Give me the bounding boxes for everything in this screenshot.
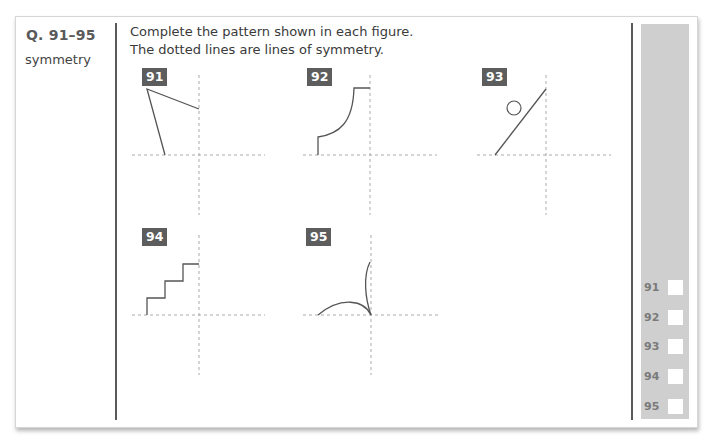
worksheet-card: Q. 91–95 symmetry Complete the pattern s… xyxy=(15,16,698,428)
answer-row-91: 91 xyxy=(641,279,689,297)
answer-label: 93 xyxy=(644,340,659,353)
question-prefix: Q. xyxy=(26,27,44,43)
figure-91: 91 xyxy=(132,68,302,238)
answer-checkbox[interactable] xyxy=(668,339,683,354)
figure-number-badge: 95 xyxy=(306,228,331,246)
figure-92: 92 xyxy=(291,68,461,238)
instruction-line-1: Complete the pattern shown in each figur… xyxy=(130,23,413,41)
figure-number-badge: 94 xyxy=(142,228,167,246)
instruction-line-2: The dotted lines are lines of symmetry. xyxy=(130,41,413,59)
instructions: Complete the pattern shown in each figur… xyxy=(130,23,413,59)
answer-panel: 91 92 93 94 95 xyxy=(641,24,689,419)
answer-row-95: 95 xyxy=(641,398,689,416)
figure-92-drawing xyxy=(291,68,461,238)
figure-93: 93 xyxy=(469,68,639,238)
figure-91-drawing xyxy=(132,68,302,238)
answer-label: 95 xyxy=(644,400,659,413)
figure-94-drawing xyxy=(132,228,302,398)
question-topic: symmetry xyxy=(25,52,91,67)
figure-number-badge: 92 xyxy=(307,68,332,86)
figure-95-drawing xyxy=(291,228,461,398)
answer-checkbox[interactable] xyxy=(668,399,683,414)
question-range: 91–95 xyxy=(49,27,96,43)
answer-checkbox[interactable] xyxy=(668,310,683,325)
figure-94: 94 xyxy=(132,228,302,398)
left-divider xyxy=(115,23,117,420)
figure-number-badge: 93 xyxy=(482,68,507,86)
answer-checkbox[interactable] xyxy=(668,280,683,295)
figure-95: 95 xyxy=(291,228,461,398)
figure-number-badge: 91 xyxy=(142,68,167,86)
figure-93-drawing xyxy=(469,68,639,238)
answer-row-93: 93 xyxy=(641,338,689,356)
question-number: Q. 91–95 xyxy=(26,27,96,43)
answer-row-92: 92 xyxy=(641,309,689,327)
answer-label: 94 xyxy=(644,370,659,383)
answer-row-94: 94 xyxy=(641,368,689,386)
answer-checkbox[interactable] xyxy=(668,369,683,384)
answer-label: 92 xyxy=(644,311,659,324)
answer-label: 91 xyxy=(644,281,659,294)
right-divider xyxy=(631,23,633,420)
